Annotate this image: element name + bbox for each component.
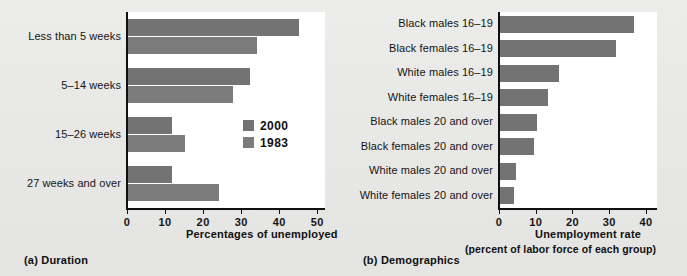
category-label: 5–14 weeks: [61, 79, 121, 91]
bar: [128, 86, 233, 104]
bar: [500, 163, 516, 180]
x-tick: [646, 210, 647, 214]
x-tick: [572, 210, 573, 214]
x-tick: [127, 210, 128, 214]
x-tick-label: 40: [634, 216, 658, 228]
legend-label-2000: 2000: [260, 119, 288, 133]
unemployment-figure: 01020304050 Less than 5 weeks5–14 weeks1…: [0, 0, 687, 276]
category-label: White males 16–19: [397, 66, 493, 78]
legend-duration[interactable]: 2000 1983: [243, 118, 288, 152]
x-tick-label: 50: [305, 216, 329, 228]
panel-demographics: 010203040 Black males 16–19Black females…: [343, 0, 687, 276]
bar: [500, 40, 616, 57]
x-tick: [165, 210, 166, 214]
x-tick: [499, 210, 500, 214]
x-tick-label: 40: [267, 216, 291, 228]
category-label: 27 weeks and over: [27, 177, 121, 189]
panel-duration: 01020304050 Less than 5 weeks5–14 weeks1…: [0, 0, 343, 276]
legend-label-1983: 1983: [260, 136, 288, 150]
category-label: Black males 16–19: [398, 17, 493, 29]
legend-item-2000[interactable]: 2000: [243, 118, 288, 133]
category-label: White males 20 and over: [369, 164, 493, 176]
x-axis-title-duration: Percentages of unemployed: [186, 228, 338, 240]
x-tick-label: 20: [560, 216, 584, 228]
x-tick: [241, 210, 242, 214]
category-label: Black males 20 and over: [370, 115, 493, 127]
bar: [500, 89, 548, 106]
bar: [128, 184, 219, 202]
bar: [500, 114, 537, 131]
legend-item-1983[interactable]: 1983: [243, 135, 288, 150]
x-axis-title-demographics: Unemployment rate: [535, 228, 641, 240]
bar: [128, 117, 172, 135]
x-tick: [536, 210, 537, 214]
panel-caption-a: (a) Duration: [24, 254, 88, 266]
x-tick: [279, 210, 280, 214]
bar: [128, 19, 299, 37]
category-label: 15–26 weeks: [55, 128, 121, 140]
x-tick: [203, 210, 204, 214]
bar: [500, 16, 634, 33]
x-tick: [317, 210, 318, 214]
x-axis-line-demographics: [498, 208, 657, 210]
category-label: White females 20 and over: [360, 189, 493, 201]
category-label: Less than 5 weeks: [28, 30, 121, 42]
bar: [128, 166, 172, 184]
bar: [128, 135, 185, 153]
x-axis-subtitle-demographics: (percent of labor force of each group): [465, 243, 656, 255]
x-axis-line-duration: [126, 208, 325, 210]
x-tick-label: 30: [597, 216, 621, 228]
x-tick: [609, 210, 610, 214]
category-label: Black females 16–19: [389, 42, 493, 54]
x-tick-label: 10: [153, 216, 177, 228]
bar: [128, 68, 250, 86]
bar: [500, 65, 559, 82]
category-label: Black females 20 and over: [361, 140, 493, 152]
bar: [500, 187, 514, 204]
panel-caption-b: (b) Demographics: [363, 254, 460, 266]
x-tick-label: 0: [115, 216, 139, 228]
x-tick-label: 10: [524, 216, 548, 228]
x-tick-label: 20: [191, 216, 215, 228]
bar: [128, 37, 257, 55]
x-tick-label: 30: [229, 216, 253, 228]
legend-swatch-1983: [243, 137, 254, 148]
legend-swatch-2000: [243, 120, 254, 131]
category-label: White females 16–19: [388, 91, 493, 103]
x-tick-label: 0: [487, 216, 511, 228]
bar: [500, 138, 534, 155]
